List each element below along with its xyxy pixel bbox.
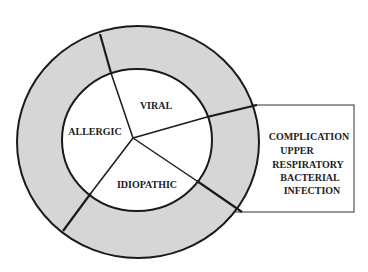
- rhinitis-classification-diagram: VIRAL ALLERGIC IDIOPATHIC COMPLICATION U…: [0, 0, 368, 272]
- label-idiopathic: IDIOPATHIC: [117, 179, 177, 190]
- label-allergic: ALLERGIC: [68, 126, 121, 137]
- label-complication-line3: RESPIRATORY: [272, 159, 344, 170]
- label-complication-line1: COMPLICATION: [269, 131, 350, 142]
- label-complication-line5: INFECTION: [284, 185, 341, 196]
- label-complication-line4: BACTERIAL: [280, 172, 340, 183]
- label-viral: VIRAL: [140, 100, 173, 111]
- label-complication-line2: UPPER: [280, 145, 314, 156]
